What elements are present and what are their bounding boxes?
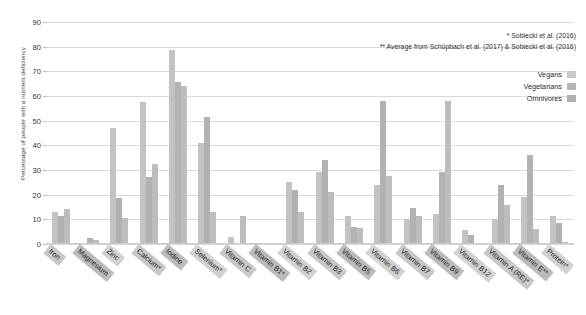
y-tick-label: 80 — [33, 42, 41, 51]
x-axis-label: Zinc — [102, 244, 125, 266]
bar-group — [310, 22, 339, 244]
legend-swatch-vegetarians — [567, 83, 576, 90]
x-axis-label: Calcium* — [131, 244, 166, 276]
bar-group — [369, 22, 398, 244]
y-tick-label: 60 — [33, 92, 41, 101]
bar-group — [46, 22, 75, 244]
bar-group — [457, 22, 486, 244]
footnote-annotations: * Sobiecki et al. (2016) ** Average from… — [380, 30, 576, 52]
bar — [152, 164, 158, 244]
y-tick-label: 30 — [33, 166, 41, 175]
bar-group — [427, 22, 456, 244]
bar-group — [545, 22, 574, 244]
bar — [240, 216, 246, 244]
plot-area: 0102030405060708090 — [46, 22, 574, 244]
bar — [416, 216, 422, 244]
bar-group — [398, 22, 427, 244]
bar-group — [134, 22, 163, 244]
legend-swatch-omnivores — [567, 95, 576, 102]
footnote-single-star: * Sobiecki et al. (2016) — [380, 30, 576, 41]
legend-label-omnivores: Omnivores — [527, 94, 562, 103]
legend-item-vegetarians[interactable]: Vegetarians — [523, 82, 576, 91]
legend-label-vegans: Vegans — [538, 70, 562, 79]
y-tick-label: 90 — [33, 18, 41, 27]
bar — [210, 212, 216, 244]
bar — [328, 192, 334, 244]
bar — [122, 218, 128, 244]
y-tick-label: 0 — [37, 240, 41, 249]
y-tick-label: 20 — [33, 190, 41, 199]
legend-swatch-vegans — [567, 71, 576, 78]
bar-group — [281, 22, 310, 244]
bar-group — [251, 22, 280, 244]
legend-label-vegetarians: Vegetarians — [523, 82, 562, 91]
bar-group — [75, 22, 104, 244]
nutrient-deficiency-bar-chart: Percentage of people with a nutrient def… — [0, 0, 586, 315]
legend-item-omnivores[interactable]: Omnivores — [527, 94, 576, 103]
legend: Vegans Vegetarians Omnivores — [523, 70, 576, 103]
y-tick-label: 70 — [33, 67, 41, 76]
bar — [445, 101, 451, 244]
bar — [533, 229, 539, 244]
bar — [64, 209, 70, 244]
bar — [298, 212, 304, 244]
bar-group — [486, 22, 515, 244]
legend-item-vegans[interactable]: Vegans — [538, 70, 576, 79]
bar-group — [339, 22, 368, 244]
y-tick-label: 10 — [33, 215, 41, 224]
bar-group — [193, 22, 222, 244]
x-axis-label: Iron — [43, 244, 65, 265]
y-tick-label: 40 — [33, 141, 41, 150]
bar — [181, 86, 187, 244]
bar-group — [222, 22, 251, 244]
footnote-double-star: ** Average from Schüpbach et al. (2017) … — [380, 41, 576, 52]
bar-group — [515, 22, 544, 244]
bar — [357, 228, 363, 244]
y-tick-label: 50 — [33, 116, 41, 125]
x-axis-category-labels: IronMagnesiumZincCalcium*IodineSelenium*… — [46, 244, 574, 315]
bar — [504, 205, 510, 244]
y-axis-title: Percentage of people with a nutrient def… — [19, 14, 26, 214]
bar — [386, 176, 392, 244]
bar-group — [163, 22, 192, 244]
bars-layer — [46, 22, 574, 244]
bar-group — [105, 22, 134, 244]
